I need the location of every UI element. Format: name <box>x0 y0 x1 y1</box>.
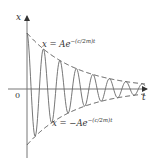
lower-equation-main: x = −Ae <box>52 118 88 128</box>
lower-equation-exponent: −(c/2m)t <box>88 117 114 123</box>
upper-envelope-equation: x = Ae−(c/2m)t <box>42 38 96 49</box>
upper-equation-exponent: −(c/2m)t <box>71 38 97 44</box>
damped-oscillation-chart: x t 0 x = Ae−(c/2m)t x = −Ae−(c/2m)t <box>0 0 154 168</box>
lower-envelope-equation: x = −Ae−(c/2m)t <box>52 117 113 128</box>
x-axis-label: t <box>142 92 146 102</box>
origin-label: 0 <box>15 91 20 100</box>
y-axis-label: x <box>16 12 21 22</box>
upper-equation-main: x = Ae <box>42 39 71 49</box>
